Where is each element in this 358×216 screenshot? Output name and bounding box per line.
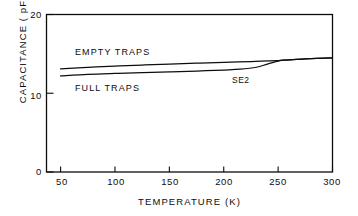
plot-canvas [0,0,358,216]
plot-frame [47,15,333,173]
capacitance-vs-temperature-chart: CAPACITANCE ( pF ) 20 10 0 50 100 150 20… [0,0,358,216]
axis-ticks [47,15,333,173]
data-curves [61,58,333,76]
